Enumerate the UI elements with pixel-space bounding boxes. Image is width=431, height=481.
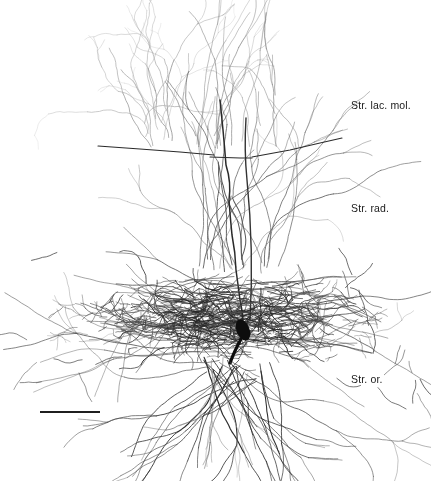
neuron-reconstruction-drawing (0, 0, 431, 481)
layer-label-stratum-oriens: Str. or. (351, 374, 383, 385)
layer-label-stratum-lacunosum-moleculare: Str. lac. mol. (351, 100, 411, 111)
neuron-figure: Str. lac. mol. Str. rad. Str. or. (0, 0, 431, 481)
scale-bar (40, 411, 100, 413)
layer-label-stratum-radiatum: Str. rad. (351, 203, 389, 214)
